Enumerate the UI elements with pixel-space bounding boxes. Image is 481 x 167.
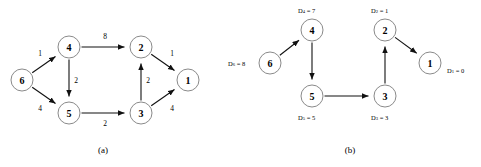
distance-label-6: D6 = 8 <box>228 60 245 68</box>
node-label-6: 6 <box>268 58 273 69</box>
graph-b-nodes: 645231 <box>259 19 441 107</box>
edge-6-to-5 <box>32 87 55 103</box>
node-label-2: 2 <box>383 25 388 36</box>
distance-label-4: D4 = 7 <box>298 7 316 15</box>
node-label-4: 4 <box>67 42 72 53</box>
edge-2-to-1 <box>395 37 417 53</box>
node-2: 2 <box>130 36 152 58</box>
panel-b-caption: (b) <box>345 145 356 155</box>
node-4: 4 <box>58 36 80 58</box>
graph-b-canvas: 645231 D6 = 8D4 = 7D5 = 5D3 = 3D2 = 1D1 … <box>240 0 481 167</box>
node-3: 3 <box>130 102 152 124</box>
edge-6-to-4 <box>32 56 55 72</box>
node-label-6: 6 <box>20 75 25 86</box>
graph-a-canvas: 645231 14822214 (a) <box>0 0 240 167</box>
node-label-1: 1 <box>186 75 191 86</box>
node-label-5: 5 <box>67 108 72 119</box>
panel-a-caption: (a) <box>98 145 108 155</box>
edge-weight-5-3: 2 <box>103 119 107 128</box>
panel-b-graph: 645231 D6 = 8D4 = 7D5 = 5D3 = 3D2 = 1D1 … <box>240 0 481 167</box>
node-label-2: 2 <box>139 42 144 53</box>
edge-weight-3-2: 2 <box>146 76 150 85</box>
edge-weight-4-2: 8 <box>103 32 107 41</box>
node-1: 1 <box>419 52 441 74</box>
node-5: 5 <box>58 102 80 124</box>
node-1: 1 <box>177 69 199 91</box>
node-label-3: 3 <box>383 91 388 102</box>
distance-label-5: D5 = 5 <box>298 114 315 122</box>
distance-label-3: D3 = 3 <box>371 114 388 122</box>
graph-b-edges <box>280 37 417 96</box>
graph-a-edges <box>32 47 174 113</box>
distance-label-1: D1 = 0 <box>447 67 464 75</box>
distance-label-2: D2 = 1 <box>371 7 388 15</box>
node-label-5: 5 <box>310 91 315 102</box>
edge-weight-2-1: 1 <box>170 49 174 58</box>
node-6: 6 <box>11 69 33 91</box>
node-6: 6 <box>259 52 281 74</box>
edge-weight-3-1: 4 <box>170 104 174 113</box>
node-4: 4 <box>301 19 323 41</box>
panel-a-graph: 645231 14822214 (a) <box>0 0 240 167</box>
edge-weight-4-5: 2 <box>74 76 78 85</box>
figure-root: 645231 14822214 (a) 645231 D6 = 8D4 = 7D… <box>0 0 481 167</box>
node-5: 5 <box>301 85 323 107</box>
node-label-3: 3 <box>139 108 144 119</box>
node-3: 3 <box>374 85 396 107</box>
node-label-1: 1 <box>428 58 433 69</box>
edge-weight-6-4: 1 <box>38 49 42 58</box>
node-2: 2 <box>374 19 396 41</box>
edge-weight-6-5: 4 <box>38 104 42 113</box>
node-label-4: 4 <box>310 25 315 36</box>
edge-6-to-4 <box>280 40 299 55</box>
